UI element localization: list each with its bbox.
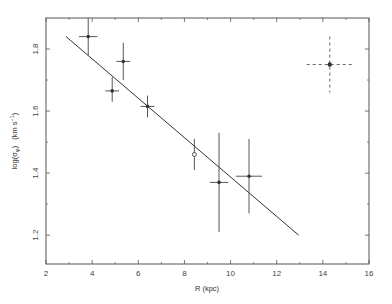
y-axis-title: log(σφ)(km s−1): [9, 112, 20, 169]
data-point: [247, 174, 251, 178]
chart: 246810121416 1.21.41.61.8 R (kpc) log(σφ…: [0, 0, 392, 304]
data-points: [79, 18, 262, 232]
data-point: [110, 89, 114, 93]
fit-line: [66, 37, 299, 236]
y-tick-label: 1.6: [31, 105, 40, 117]
fit-line-group: [66, 37, 299, 236]
x-tick-label: 2: [44, 269, 49, 278]
data-point: [217, 181, 221, 185]
x-tick-label: 14: [318, 269, 327, 278]
x-tick-label: 12: [272, 269, 281, 278]
x-tick-label: 6: [136, 269, 141, 278]
x-axis-title: R (kpc): [195, 284, 220, 293]
y-tick-label: 1.8: [31, 43, 40, 55]
y-tick-label: 1.4: [31, 167, 40, 179]
x-tick-label: 16: [365, 269, 374, 278]
x-tick-label: 4: [90, 269, 95, 278]
x-tick-label: 8: [182, 269, 187, 278]
data-point: [121, 60, 125, 64]
data-point: [146, 105, 150, 109]
x-axis: 246810121416: [44, 18, 374, 278]
y-axis: 1.21.41.61.8: [31, 43, 369, 241]
x-tick-label: 10: [226, 269, 235, 278]
data-point-open: [192, 152, 196, 156]
typical-error-point: [328, 62, 332, 66]
plot-frame: [46, 18, 369, 264]
typical-error-cross: [307, 37, 353, 93]
data-point: [86, 35, 90, 39]
y-tick-label: 1.2: [31, 229, 40, 241]
